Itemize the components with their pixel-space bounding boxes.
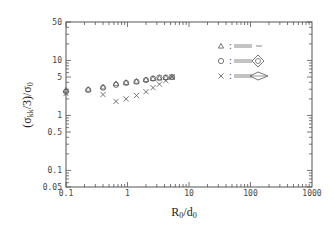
x-data-point xyxy=(157,82,162,87)
triangle-legend-marker xyxy=(218,43,223,48)
notch-shape-icon xyxy=(250,72,268,80)
x-legend-marker xyxy=(218,73,223,78)
x-data-point xyxy=(143,89,148,94)
x-data-point xyxy=(124,96,129,101)
legend-separator: : xyxy=(228,57,233,66)
x-data-point xyxy=(100,92,105,97)
y-tick-label: 1 xyxy=(57,111,62,120)
y-tick-label: 0.1 xyxy=(48,166,63,175)
notch-shape-icon xyxy=(252,55,264,67)
x-data-point xyxy=(150,85,155,90)
plot-frame xyxy=(66,22,312,187)
y-tick-label: 5 xyxy=(57,73,62,82)
y-tick-label: 50 xyxy=(52,18,62,27)
svg-text:(σkk/3)/σ0: (σkk/3)/σ0 xyxy=(20,82,35,128)
y-tick-label: 10 xyxy=(52,56,62,65)
x-data-point xyxy=(134,93,139,98)
x-tick-label: 1000 xyxy=(302,189,321,198)
y-tick-label: 0.05 xyxy=(43,183,62,192)
x-axis-title: R0/d0 xyxy=(171,205,196,220)
x-tick-label: 100 xyxy=(243,189,258,198)
x-data-point xyxy=(163,78,168,83)
data-points xyxy=(63,74,174,104)
legend-separator: : xyxy=(228,72,233,81)
tick-labels: 0.111010010000.050.10.5151050 xyxy=(43,18,322,198)
x-tick-label: 1 xyxy=(125,189,130,198)
axes-box xyxy=(66,22,312,187)
x-data-point xyxy=(113,99,118,104)
circle-legend-marker xyxy=(218,58,223,63)
y-axis-title: (σkk/3)/σ0 xyxy=(20,82,35,128)
chart: 0.111010010000.050.10.5151050 ::: R0/d0 … xyxy=(0,0,334,233)
x-tick-label: 10 xyxy=(184,189,194,198)
legend-separator: : xyxy=(228,42,233,51)
y-tick-label: 0.5 xyxy=(48,128,63,137)
legend: ::: xyxy=(218,42,268,81)
notch-shape-icon xyxy=(252,45,262,46)
axis-ticks xyxy=(66,22,312,187)
